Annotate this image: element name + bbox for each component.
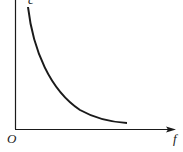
x-axis-label: f xyxy=(173,132,177,145)
y-axis-label: c xyxy=(28,0,34,6)
diagram-canvas xyxy=(0,0,183,152)
decreasing-curve xyxy=(28,7,127,123)
origin-label: O xyxy=(7,132,16,145)
